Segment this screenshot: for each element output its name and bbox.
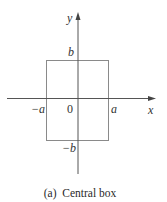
x-axis-label: x [147, 103, 154, 117]
tick-label-neg-b: −b [62, 141, 76, 155]
tick-label-pos-b: b [68, 45, 74, 59]
figure-caption: (a) Central box [44, 187, 117, 200]
x-axis-arrow-icon [148, 96, 156, 101]
central-box-diagram: y x b −a 0 a −b (a) Central box [0, 0, 167, 202]
tick-label-pos-a: a [111, 102, 117, 116]
tick-label-origin: 0 [67, 102, 73, 116]
y-axis-arrow-icon [76, 12, 81, 20]
tick-label-neg-a: −a [31, 102, 45, 116]
y-axis-label: y [66, 11, 73, 25]
